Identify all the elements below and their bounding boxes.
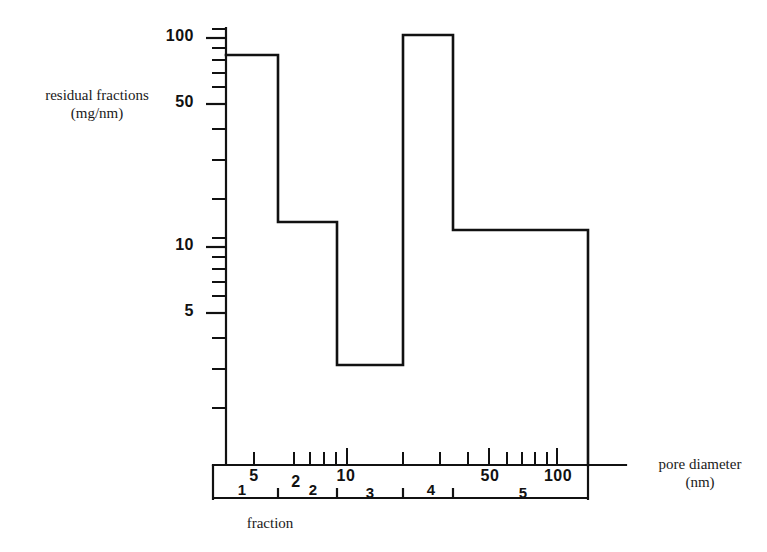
fraction-label-2: 2 xyxy=(303,481,323,498)
x-tick-label-10: 10 xyxy=(329,467,363,485)
x-axis-title-line2: (nm) xyxy=(685,474,714,490)
x-tick-label-50: 50 xyxy=(473,467,507,485)
fraction-label-5: 5 xyxy=(513,484,533,501)
x-tick-label-100: 100 xyxy=(537,467,579,485)
y-tick-label-10: 10 xyxy=(146,236,194,254)
fraction-label-3: 3 xyxy=(360,484,380,501)
y-axis-title-line1: residual fractions xyxy=(45,87,149,103)
step-curve xyxy=(226,35,588,465)
fraction-label-4: 4 xyxy=(421,481,441,498)
fraction-label-1: 1 xyxy=(232,481,252,498)
y-axis-major-ticks xyxy=(206,38,226,313)
x-axis-title-line1: pore diameter xyxy=(659,456,742,472)
y-tick-label-5: 5 xyxy=(146,302,194,320)
y-tick-label-100: 100 xyxy=(146,27,194,45)
fraction-axis-caption: fraction xyxy=(205,514,335,532)
y-axis-minor-ticks xyxy=(212,29,226,408)
y-axis-title: residual fractions (mg/nm) xyxy=(22,86,172,122)
x-axis-log-ticks xyxy=(254,448,557,465)
y-axis-title-line2: (mg/nm) xyxy=(71,105,124,121)
x-axis-title: pore diameter (nm) xyxy=(640,455,760,491)
